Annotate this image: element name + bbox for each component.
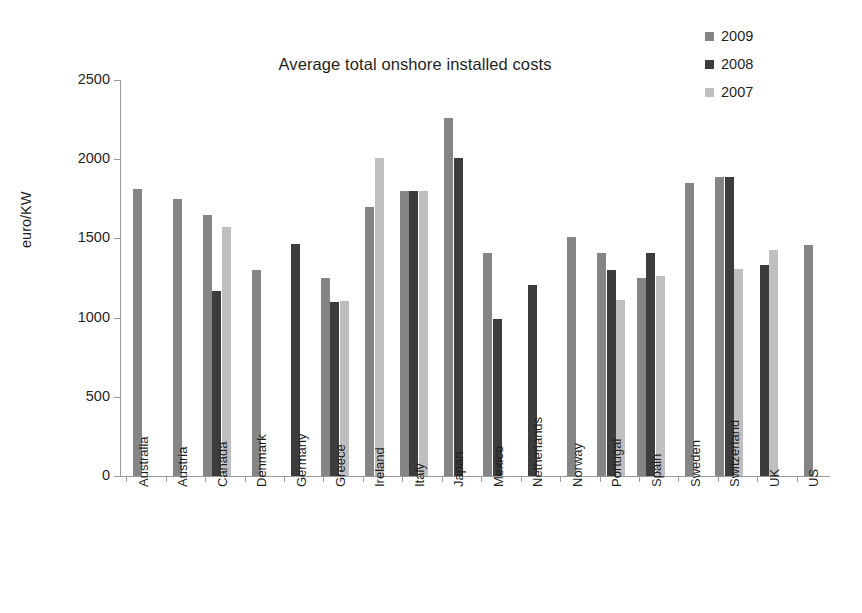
x-axis-category-label: UK — [767, 469, 782, 487]
x-axis-tick — [402, 476, 403, 482]
bar-italy-2008 — [409, 191, 418, 476]
x-axis-category-label: Japan — [451, 452, 466, 487]
bar-canada-2009 — [203, 215, 212, 476]
chart-title: Average total onshore installed costs — [255, 55, 575, 74]
legend-item-label: 2009 — [721, 22, 753, 50]
x-axis-tick — [126, 476, 127, 482]
x-axis-tick — [521, 476, 522, 482]
bar-switzerland-2009 — [715, 177, 724, 476]
y-axis-title: euro/KW — [18, 192, 34, 248]
x-axis-tick — [363, 476, 364, 482]
legend-item-2008: 2008 — [705, 50, 753, 78]
y-axis-tick — [114, 159, 120, 160]
x-axis-category-label: Denmark — [254, 434, 269, 487]
x-axis-category-label: Canada — [215, 441, 230, 487]
y-axis-tick — [114, 397, 120, 398]
y-axis-tick-label: 1500 — [54, 229, 110, 245]
x-axis-category-label: Switzerland — [727, 420, 742, 487]
x-axis-category-label: Spain — [649, 454, 664, 487]
x-axis-tick — [757, 476, 758, 482]
bar-japan-2008 — [454, 158, 463, 476]
y-axis-tick — [114, 318, 120, 319]
bar-norway-2009 — [567, 237, 576, 476]
bar-canada-2007 — [222, 227, 231, 476]
x-axis-category-label: Italy — [412, 463, 427, 487]
bar-italy-2009 — [400, 191, 409, 476]
bar-sweden-2009 — [685, 183, 694, 476]
x-axis-tick — [166, 476, 167, 482]
bar-ireland-2007 — [375, 158, 384, 476]
x-axis-tick — [639, 476, 640, 482]
x-axis-tick — [442, 476, 443, 482]
x-axis-tick — [205, 476, 206, 482]
y-axis-line — [120, 80, 121, 476]
y-axis-tick-label: 0 — [54, 467, 110, 483]
x-axis-tick — [560, 476, 561, 482]
bar-spain-2008 — [646, 253, 655, 476]
bar-portugal-2009 — [597, 253, 606, 476]
bar-mexico-2009 — [483, 253, 492, 476]
bar-uk-2008 — [760, 265, 769, 476]
chart-container: Average total onshore installed costs 20… — [0, 0, 862, 613]
x-axis-tick — [323, 476, 324, 482]
x-axis-category-label: Sweden — [688, 440, 703, 487]
x-axis-category-label: Ireland — [372, 447, 387, 487]
y-axis-tick — [114, 80, 120, 81]
bar-japan-2009 — [444, 118, 453, 476]
x-axis-tick — [718, 476, 719, 482]
y-axis-tick-label: 2500 — [54, 71, 110, 87]
bar-ireland-2009 — [365, 207, 374, 476]
legend-item-2009: 2009 — [705, 22, 753, 50]
x-axis-tick — [245, 476, 246, 482]
bar-austria-2009 — [173, 199, 182, 476]
y-axis-tick — [114, 476, 120, 477]
legend-swatch-icon — [705, 60, 714, 69]
bar-spain-2007 — [656, 276, 665, 476]
x-axis-category-label: Germany — [294, 434, 309, 487]
x-axis-tick — [797, 476, 798, 482]
bar-spain-2009 — [637, 278, 646, 476]
x-axis-tick — [481, 476, 482, 482]
x-axis-category-label: US — [806, 469, 821, 487]
bar-australia-2009 — [133, 189, 142, 476]
y-axis-tick-label: 2000 — [54, 150, 110, 166]
bar-greece-2009 — [321, 278, 330, 476]
bar-uk-2007 — [769, 250, 778, 477]
x-axis-tick — [284, 476, 285, 482]
x-axis-tick — [600, 476, 601, 482]
y-axis-tick-label: 500 — [54, 388, 110, 404]
x-axis-category-label: Australia — [136, 436, 151, 487]
x-axis-tick — [678, 476, 679, 482]
x-axis-category-label: Portugal — [609, 439, 624, 487]
x-axis-category-label: Netherlands — [530, 417, 545, 487]
legend-swatch-icon — [705, 32, 714, 41]
x-axis-category-label: Austria — [175, 447, 190, 487]
bar-us-2009 — [804, 245, 813, 476]
plot-area — [120, 80, 830, 476]
x-axis-category-label: Greece — [333, 444, 348, 487]
bar-italy-2007 — [419, 191, 428, 476]
y-axis-tick — [114, 238, 120, 239]
x-axis-category-label: Mexico — [491, 446, 506, 487]
y-axis-tick-label: 1000 — [54, 309, 110, 325]
legend-item-label: 2008 — [721, 50, 753, 78]
x-axis-category-label: Norway — [570, 443, 585, 487]
